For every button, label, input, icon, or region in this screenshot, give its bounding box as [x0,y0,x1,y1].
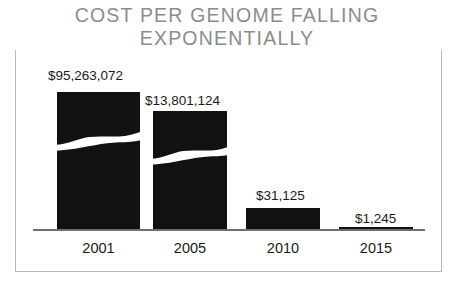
plot-area: $95,263,072 $13,801,124 $31,125 $1,245 2… [15,27,442,272]
x-axis-line [33,229,425,231]
bar-label-2001: $95,263,072 [48,68,123,83]
tick-label-2010: 2010 [246,240,320,257]
chart-title-line-1: COST PER GENOME FALLING [0,4,454,27]
bar-label-2015: $1,245 [355,211,396,226]
bar-label-2010: $31,125 [256,188,305,203]
tick-label-2001: 2001 [57,240,140,257]
chart-canvas: COST PER GENOME FALLING EXPONENTIALLY $9… [0,0,454,282]
tick-label-2015: 2015 [339,240,413,257]
tick-label-2005: 2005 [153,240,227,257]
bar-label-2005: $13,801,124 [145,93,220,108]
bar-2005 [153,111,227,229]
bar-2010 [246,208,320,229]
bar-2001 [57,92,140,229]
